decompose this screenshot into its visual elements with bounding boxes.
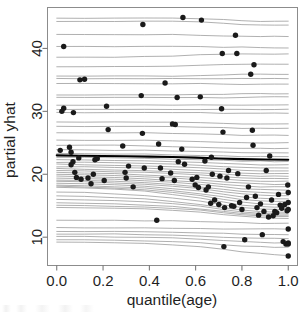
data-point [72, 170, 77, 175]
partial-effect-figure: 0.00.20.40.60.81.0 10203040 quantile(age… [0, 0, 306, 314]
data-point [168, 170, 173, 175]
data-point [251, 62, 256, 67]
data-point [176, 159, 181, 164]
data-point [267, 153, 272, 158]
data-point [234, 51, 239, 56]
data-point [126, 163, 131, 168]
data-point [269, 197, 274, 202]
data-point [244, 195, 249, 200]
x-axis-title: quantile(age) [127, 291, 217, 308]
x-tick-label: 0.4 [139, 272, 160, 289]
data-point [260, 232, 265, 237]
y-tick-label: 10 [28, 229, 45, 246]
data-point [122, 170, 127, 175]
x-tick-label: 1.0 [278, 272, 299, 289]
data-point [91, 172, 96, 177]
data-point [224, 175, 229, 180]
data-point [77, 77, 82, 82]
data-point [256, 212, 261, 217]
chart-canvas: 0.00.20.40.60.81.0 10203040 quantile(age… [0, 0, 306, 314]
data-point [250, 128, 255, 133]
data-point [216, 202, 221, 207]
data-point [88, 181, 93, 186]
data-point [285, 182, 290, 187]
data-point [82, 77, 87, 82]
data-point [286, 253, 291, 258]
data-point [286, 200, 291, 205]
data-point [173, 122, 178, 127]
data-point [221, 244, 226, 249]
data-point [95, 156, 100, 161]
data-point [250, 143, 255, 148]
data-point [74, 175, 79, 180]
data-point [159, 176, 164, 181]
data-point [233, 32, 238, 37]
data-point [235, 171, 240, 176]
data-point [68, 150, 73, 155]
data-point [222, 205, 227, 210]
data-point [140, 131, 145, 136]
data-point [68, 162, 73, 167]
data-point [58, 148, 63, 153]
data-point [286, 207, 291, 212]
x-tick-label: 0.6 [185, 272, 206, 289]
y-axis-title: partial yhat [1, 101, 18, 178]
data-point [220, 51, 225, 56]
data-point [286, 190, 291, 195]
data-point [67, 145, 72, 150]
x-tick-label: 0.2 [93, 272, 114, 289]
data-point [276, 192, 281, 197]
y-tick-label: 20 [28, 166, 45, 183]
y-tick-label: 40 [28, 40, 45, 57]
data-point [198, 94, 203, 99]
data-point [104, 104, 109, 109]
data-point [158, 165, 163, 170]
data-point [206, 184, 211, 189]
data-point [59, 109, 64, 114]
data-point [286, 241, 291, 246]
data-point [264, 168, 269, 173]
data-point [71, 110, 76, 115]
data-point [85, 175, 90, 180]
data-point [76, 155, 81, 160]
data-point [220, 129, 225, 134]
data-point [172, 178, 177, 183]
data-point [226, 168, 231, 173]
data-point [199, 17, 204, 22]
data-point [189, 177, 194, 182]
data-point [266, 214, 271, 219]
x-tick-label: 0.8 [232, 272, 253, 289]
data-point [120, 143, 125, 148]
data-point [196, 185, 201, 190]
data-point [253, 194, 258, 199]
data-point [102, 178, 107, 183]
data-point [78, 177, 83, 182]
data-point [142, 165, 147, 170]
y-tick-label: 30 [28, 103, 45, 120]
data-point [130, 184, 135, 189]
data-point [202, 158, 207, 163]
data-point [140, 22, 145, 27]
x-tick-label: 0.0 [46, 272, 67, 289]
data-point [217, 173, 222, 178]
data-point [139, 93, 144, 98]
data-point [124, 175, 129, 180]
data-point [219, 106, 224, 111]
data-point [231, 204, 236, 209]
data-point [162, 80, 167, 85]
data-point [105, 127, 110, 132]
data-point [179, 146, 184, 151]
data-point [239, 207, 244, 212]
data-point [180, 15, 185, 20]
data-point [261, 209, 266, 214]
data-point [248, 72, 253, 77]
data-point [258, 201, 263, 206]
data-point [274, 210, 279, 215]
data-point [237, 200, 242, 205]
data-point [61, 44, 66, 49]
data-point [194, 175, 199, 180]
data-point [154, 217, 159, 222]
data-point [212, 197, 217, 202]
data-point [156, 141, 161, 146]
data-point [210, 172, 215, 177]
